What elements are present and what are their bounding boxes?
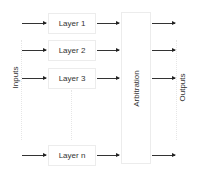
- layer-arrow-n: [97, 155, 119, 156]
- layer-box-2: Layer 2: [48, 40, 96, 61]
- layer-label: Layer 3: [59, 74, 86, 83]
- layer-label: Layer 1: [59, 19, 86, 28]
- input-arrow-1: [22, 23, 46, 24]
- input-arrow-2: [22, 50, 46, 51]
- layer-box-3: Layer 3: [48, 68, 96, 89]
- layer-label: Layer 2: [59, 46, 86, 55]
- layer-arrow-3: [97, 78, 119, 79]
- layer-arrow-2: [97, 50, 119, 51]
- architecture-diagram: Inputs Layer 1 Layer 2 Layer 3 Layer n A…: [0, 0, 199, 170]
- output-arrow-n: [152, 155, 175, 156]
- layer-box-n: Layer n: [48, 145, 96, 166]
- output-arrow-3: [152, 78, 175, 79]
- outputs-label: Outputs: [178, 70, 187, 106]
- output-arrow-2: [152, 50, 175, 51]
- arbitration-label: Arbitration: [132, 70, 141, 106]
- arbitration-box: Arbitration: [121, 12, 151, 164]
- layer-box-1: Layer 1: [48, 13, 96, 34]
- output-arrow-1: [152, 23, 175, 24]
- layer-label: Layer n: [59, 151, 86, 160]
- inputs-dotted-line: [21, 40, 22, 140]
- input-arrow-n: [22, 155, 46, 156]
- inputs-label: Inputs: [11, 63, 20, 93]
- layer-arrow-1: [97, 23, 119, 24]
- input-arrow-3: [22, 78, 46, 79]
- layers-dotted-line: [71, 90, 72, 140]
